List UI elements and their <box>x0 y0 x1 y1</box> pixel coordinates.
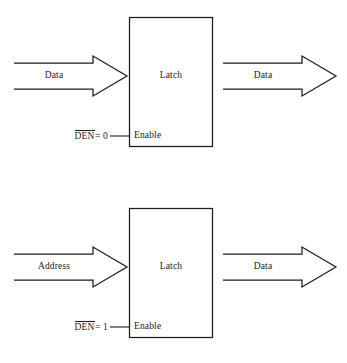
input-arrow-label: Data <box>14 71 94 81</box>
latch-diagram-den-low-graphics <box>0 0 347 182</box>
control-signal-equals: = <box>95 131 101 141</box>
latch-block-label: Latch <box>129 262 213 272</box>
enable-pin-label: Enable <box>134 131 161 141</box>
control-signal-label: DEN= 0 <box>56 130 108 141</box>
latch-block-outline <box>130 18 213 147</box>
latch-diagram-den-low: Latch Enable Data Data DEN= 0 <box>0 0 347 182</box>
control-signal-label: DEN= 1 <box>56 321 108 332</box>
latch-diagram-den-high: Latch Enable Address Data DEN= 1 <box>0 181 347 363</box>
enable-pin-label: Enable <box>134 322 161 332</box>
control-signal-value: 1 <box>103 322 108 332</box>
latch-block-label: Latch <box>129 71 213 81</box>
control-signal-name: DEN <box>75 130 95 141</box>
latch-diagram-den-high-graphics <box>0 181 347 363</box>
control-signal-name: DEN <box>75 321 95 332</box>
input-arrow-label: Address <box>14 262 94 272</box>
output-arrow-label: Data <box>223 71 303 81</box>
control-signal-value: 0 <box>103 131 108 141</box>
output-arrow-label: Data <box>223 262 303 272</box>
latch-block-outline <box>130 209 213 338</box>
control-signal-equals: = <box>95 322 101 332</box>
